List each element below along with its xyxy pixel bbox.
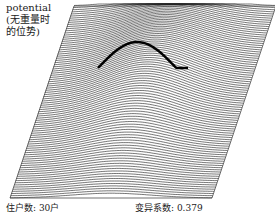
surface-profile-line	[18, 166, 220, 174]
surface-profile-line	[24, 145, 226, 157]
surface-profile-line	[10, 193, 212, 198]
surface-profile-line	[17, 168, 219, 176]
axis-title-line-2: (无重量时	[6, 14, 76, 26]
surface-profile-line	[60, 26, 262, 47]
axis-title: potential (无重量时 的位势)	[6, 2, 76, 38]
households-count-label: 住户数: 30户	[6, 202, 59, 212]
coefficient-of-variation-label: 变异系数: 0.379	[135, 202, 203, 212]
surface-profile-line	[23, 148, 225, 159]
axis-title-line-1: potential	[6, 2, 76, 14]
surface-profile-line	[19, 163, 221, 172]
surface-profile-line	[42, 78, 244, 101]
axis-title-line-3: 的位势)	[6, 26, 76, 38]
